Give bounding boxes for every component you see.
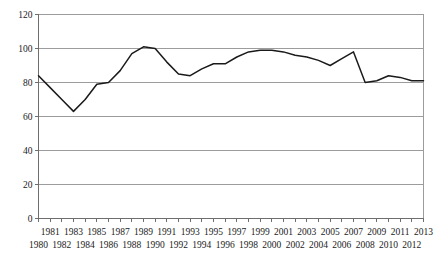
y-tick-label-120: 120 xyxy=(18,10,33,20)
x-tick-label-2005: 2005 xyxy=(321,227,340,237)
x-tick-label-1983: 1983 xyxy=(64,227,83,237)
x-tick-label-2003: 2003 xyxy=(297,227,316,237)
x-tick-label-1994: 1994 xyxy=(192,240,211,250)
x-tick-label-1996: 1996 xyxy=(216,240,235,250)
chart-canvas: 020406080100120 198119831985198719891991… xyxy=(0,0,447,265)
x-tick-label-1988: 1988 xyxy=(122,240,141,250)
x-tick-label-2007: 2007 xyxy=(344,227,363,237)
x-tick-label-1984: 1984 xyxy=(76,240,95,250)
y-tick-label-20: 20 xyxy=(23,180,33,190)
y-tick-label-60: 60 xyxy=(23,112,33,122)
x-tick-label-1985: 1985 xyxy=(87,227,106,237)
x-tick-label-1986: 1986 xyxy=(99,240,118,250)
y-tick-label-100: 100 xyxy=(18,44,33,54)
x-tick-label-2008: 2008 xyxy=(356,240,375,250)
y-tick-label-0: 0 xyxy=(28,214,33,224)
x-tick-label-1987: 1987 xyxy=(111,227,130,237)
x-tick-label-1981: 1981 xyxy=(41,227,60,237)
x-tick-label-1982: 1982 xyxy=(52,240,71,250)
x-tick-label-2006: 2006 xyxy=(332,240,351,250)
x-tick-label-1993: 1993 xyxy=(181,227,200,237)
x-tick-label-2001: 2001 xyxy=(274,227,293,237)
x-tick-label-1992: 1992 xyxy=(169,240,188,250)
gridlines xyxy=(39,15,424,185)
x-axis-ticks xyxy=(39,219,424,223)
x-tick-label-2010: 2010 xyxy=(379,240,398,250)
series-line-1 xyxy=(39,47,424,112)
y-tick-labels: 020406080100120 xyxy=(18,10,33,224)
x-tick-label-1991: 1991 xyxy=(157,227,176,237)
x-tick-label-2000: 2000 xyxy=(262,240,281,250)
x-tick-label-1995: 1995 xyxy=(204,227,223,237)
x-tick-label-2011: 2011 xyxy=(391,227,410,237)
x-tick-label-1998: 1998 xyxy=(239,240,258,250)
x-tick-label-1990: 1990 xyxy=(146,240,165,250)
x-tick-label-2004: 2004 xyxy=(309,240,328,250)
data-series-group xyxy=(39,47,424,112)
x-tick-labels-top-row: 1981198319851987198919911993199519971999… xyxy=(41,227,434,237)
line-chart: 020406080100120 198119831985198719891991… xyxy=(0,0,447,265)
y-axis-ticks xyxy=(35,15,39,219)
x-tick-label-2013: 2013 xyxy=(414,227,433,237)
x-tick-label-1989: 1989 xyxy=(134,227,153,237)
x-tick-label-1980: 1980 xyxy=(29,240,48,250)
x-tick-label-2009: 2009 xyxy=(367,227,386,237)
x-tick-label-1997: 1997 xyxy=(227,227,246,237)
x-tick-label-2002: 2002 xyxy=(286,240,305,250)
x-tick-labels-bottom-row: 1980198219841986198819901992199419961998… xyxy=(29,240,422,250)
y-tick-label-80: 80 xyxy=(23,78,33,88)
x-tick-label-1999: 1999 xyxy=(251,227,270,237)
y-tick-label-40: 40 xyxy=(23,146,33,156)
x-tick-label-2012: 2012 xyxy=(402,240,421,250)
